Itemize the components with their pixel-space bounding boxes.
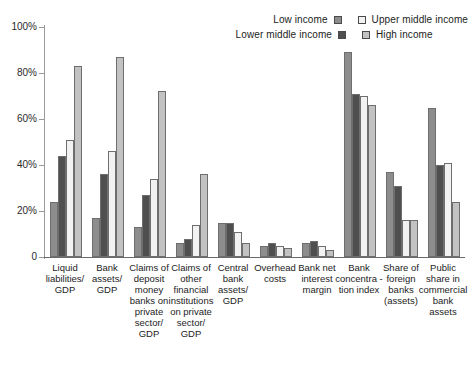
legend-label-upper-middle-income: Upper middle income xyxy=(372,14,468,25)
y-tick-label: 0 xyxy=(3,251,37,262)
bar xyxy=(74,66,82,257)
bar xyxy=(184,239,192,257)
bar xyxy=(242,243,250,257)
plot-area xyxy=(44,27,464,257)
bar xyxy=(218,223,226,258)
bar xyxy=(386,172,394,257)
y-tick-mark xyxy=(39,257,44,258)
y-tick-label: 80% xyxy=(3,67,37,78)
bar xyxy=(66,140,74,257)
bar xyxy=(108,151,116,257)
x-axis-category-label: Public share in commercial bank assets xyxy=(418,262,468,317)
x-axis-category-labels: Liquid liabilities/ GDPBank assets/ GDPC… xyxy=(44,262,465,367)
bar-group xyxy=(344,27,376,257)
legend-entry-upper-middle-income: Upper middle income xyxy=(358,14,468,25)
bar-group xyxy=(428,27,460,257)
y-tick-label: 40% xyxy=(3,159,37,170)
bar xyxy=(284,248,292,257)
bar xyxy=(302,243,310,257)
bar xyxy=(410,220,418,257)
legend-row-1: Low income Upper middle income xyxy=(218,12,468,27)
bar xyxy=(226,223,234,258)
bar-group xyxy=(386,27,418,257)
bar xyxy=(200,174,208,257)
bar xyxy=(176,243,184,257)
bar xyxy=(192,225,200,257)
legend-entry-low-income: Low income xyxy=(218,14,342,25)
y-axis-labels: 020%40%60%80%100% xyxy=(0,0,37,300)
bar-group xyxy=(260,27,292,257)
bar xyxy=(158,91,166,257)
bar xyxy=(394,186,402,257)
bar xyxy=(276,246,284,258)
bar-group xyxy=(218,27,250,257)
bar xyxy=(344,52,352,257)
bar xyxy=(318,246,326,258)
bar-group xyxy=(92,27,124,257)
legend-label-low-income: Low income xyxy=(273,14,327,25)
bar xyxy=(326,250,334,257)
bar xyxy=(268,243,276,257)
bar xyxy=(100,174,108,257)
bar-group xyxy=(50,27,82,257)
bar xyxy=(368,105,376,257)
low-income-swatch xyxy=(334,16,342,24)
bar xyxy=(142,195,150,257)
bar xyxy=(452,202,460,257)
y-tick-label: 100% xyxy=(3,21,37,32)
bar-group xyxy=(176,27,208,257)
bar xyxy=(92,218,100,257)
bar xyxy=(50,202,58,257)
bar xyxy=(150,179,158,257)
bar xyxy=(58,156,66,257)
bar xyxy=(234,232,242,257)
y-tick-label: 60% xyxy=(3,113,37,124)
bar xyxy=(116,57,124,257)
bar xyxy=(134,227,142,257)
chart-figure: Low income Upper middle income Lower mid… xyxy=(0,0,472,370)
bar xyxy=(260,246,268,258)
bar xyxy=(444,163,452,257)
bar xyxy=(402,220,410,257)
bar xyxy=(360,96,368,257)
bar-group xyxy=(134,27,166,257)
bar xyxy=(428,108,436,258)
upper-middle-income-swatch xyxy=(358,16,366,24)
bar-group xyxy=(302,27,334,257)
bar xyxy=(310,241,318,257)
bar xyxy=(436,165,444,257)
y-tick-label: 20% xyxy=(3,205,37,216)
bar xyxy=(352,94,360,257)
x-axis-line xyxy=(44,257,465,258)
